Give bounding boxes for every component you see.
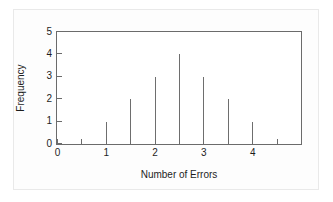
- x-axis-minor-tick: [130, 139, 131, 144]
- data-spike: [203, 77, 204, 144]
- x-axis-tick-label: 0: [55, 148, 61, 158]
- x-axis-tick: 1: [106, 139, 107, 144]
- x-axis-tick: 4: [252, 139, 253, 144]
- y-axis-tick: 2: [57, 98, 62, 99]
- x-axis-minor-tick: [179, 139, 180, 144]
- y-axis-tick: 5: [57, 31, 62, 32]
- data-spike: [179, 54, 180, 144]
- x-axis-tick-label: 1: [104, 148, 110, 158]
- plot-area: 012345 01234: [56, 31, 302, 145]
- y-axis-tick-label: 0: [46, 139, 52, 149]
- x-axis-tick-label: 4: [250, 148, 256, 158]
- x-axis-tick: 2: [155, 139, 156, 144]
- y-axis-tick: 4: [57, 53, 62, 54]
- y-axis-title: Frequency: [16, 64, 26, 111]
- y-axis-tick-label: 3: [46, 71, 52, 81]
- y-axis-tick-label: 1: [46, 116, 52, 126]
- x-axis-tick-label: 2: [152, 148, 158, 158]
- x-axis-title: Number of Errors: [56, 170, 302, 180]
- y-axis-tick-label: 2: [46, 94, 52, 104]
- data-spike: [155, 77, 156, 144]
- x-axis-minor-tick: [277, 139, 278, 144]
- x-axis-tick-label: 3: [201, 148, 207, 158]
- x-axis-minor-tick: [228, 139, 229, 144]
- x-axis-tick: 0: [57, 139, 58, 144]
- x-axis-minor-tick: [81, 139, 82, 144]
- x-axis-tick: 3: [203, 139, 204, 144]
- data-spike: [228, 99, 229, 144]
- y-axis-tick: 3: [57, 76, 62, 77]
- y-axis-tick-label: 4: [46, 49, 52, 59]
- y-axis-tick: 1: [57, 121, 62, 122]
- chart-figure: 012345 01234 Number of Errors Frequency: [0, 0, 333, 202]
- y-axis-tick-label: 5: [46, 27, 52, 37]
- data-spike: [130, 99, 131, 144]
